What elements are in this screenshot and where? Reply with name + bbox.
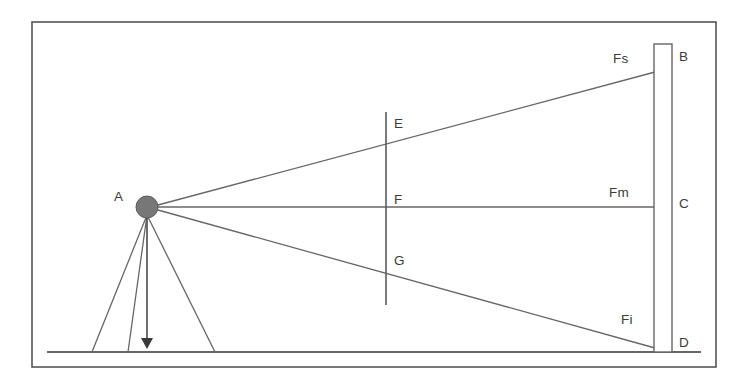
label-reading-fs: Fs: [613, 51, 628, 66]
plumb-arrowhead: [141, 338, 153, 349]
lower-stadia-line: [158, 210, 655, 348]
label-point-f: F: [394, 192, 402, 207]
levelling-diagram: A B C D E F G Fs Fm Fi: [0, 0, 746, 389]
label-reading-fi: Fi: [621, 312, 633, 327]
tripod-leg-left: [92, 215, 147, 352]
label-point-a: A: [114, 189, 123, 204]
label-point-e: E: [394, 116, 403, 131]
label-point-d: D: [679, 335, 689, 350]
diagram-canvas: A B C D E F G Fs Fm Fi: [0, 0, 746, 389]
tripod-leg-right: [147, 215, 215, 352]
levelling-staff: [654, 44, 672, 352]
upper-stadia-line: [158, 72, 655, 205]
tripod-leg-center: [128, 215, 147, 352]
label-reading-fm: Fm: [609, 185, 629, 200]
instrument-station-marker: [136, 196, 158, 218]
label-point-g: G: [394, 253, 405, 268]
label-point-b: B: [679, 49, 688, 64]
label-point-c: C: [679, 196, 689, 211]
